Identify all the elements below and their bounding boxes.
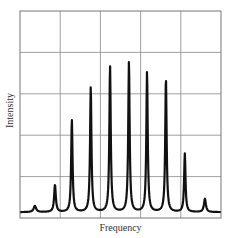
intensity-curve [20,62,221,212]
x-axis-label: Frequency [20,222,221,233]
spectrum-chart [0,0,229,238]
grid [20,11,221,218]
plot-frame [20,11,221,218]
y-axis-label: Intensity [4,86,15,136]
